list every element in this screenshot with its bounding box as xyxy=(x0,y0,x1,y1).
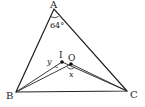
segment-co xyxy=(71,64,127,91)
label-i: I xyxy=(59,50,63,60)
triangle-abc xyxy=(16,9,127,92)
label-a: A xyxy=(49,0,58,10)
point-i xyxy=(60,60,64,64)
label-angle-x: x xyxy=(69,70,74,79)
geometry-diagram: A B C I O 64° y x xyxy=(0,0,145,107)
angle-y-arc xyxy=(55,66,58,68)
label-b: B xyxy=(6,90,13,101)
label-c: C xyxy=(130,89,138,100)
segment-bo xyxy=(16,64,71,92)
label-o: O xyxy=(68,53,75,63)
angle-a-arc xyxy=(51,17,59,18)
label-angle-y: y xyxy=(46,57,52,66)
label-angle-a: 64° xyxy=(50,21,64,30)
